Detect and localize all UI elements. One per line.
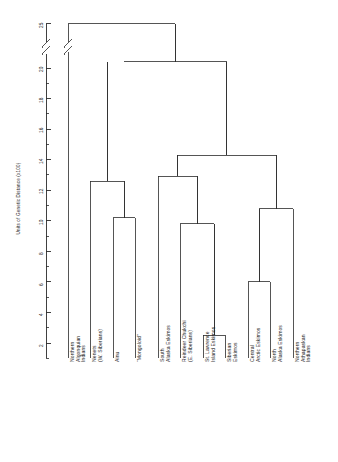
leaf-label-line: Arctic Eskimos [256,328,262,362]
leaf-label-central-arctic-eskimos: CentralArctic Eskimos [250,328,261,362]
leaf-label-reindeer-chukchi-e-siberians: Reindeer Chukchi(E. Siberians) [182,320,193,362]
y-axis-tick-label: 6 [39,283,44,286]
leaf-label-line: “Mongoloid” [137,334,143,362]
dendrogram-canvas [0,0,338,462]
leaf-label-north-alaska-eskimos: NorthAlaska Eskimos [272,325,283,362]
leaf-label-line: (E. Siberians) [188,320,194,362]
leaf-label-mongoloid: “Mongoloid” [137,334,143,362]
leaf-label-south-alaska-eskimos: SouthAlaska Eskimos [160,325,171,362]
y-axis-tick-label: 8 [39,253,44,256]
leaf-label-line: Indians [81,336,87,362]
axis-break-mark [42,46,50,55]
leaf-label-line: Eskimos [233,342,239,362]
leaf-label-line: Alaska Eskimos [278,325,284,362]
leaf-label-line: Indians [306,334,312,362]
y-axis-tick-label: 10 [39,219,44,225]
leaf-label-ainu: Ainu [115,352,121,363]
leaf-label-northern-algonquian-indians: NorthernAlgonquianIndians [70,336,87,362]
leaf-label-st-lawrence-island-eskimos: St. LawrenceIsland Eskimos [205,327,216,362]
dendrogram-tree [64,24,293,358]
y-axis-tick-label: 25 [39,22,44,28]
y-axis-tick-label: 14 [39,158,44,164]
leaf-label-line: Island Eskimos [211,327,217,362]
leaf-label-siberian-eskimos: SiberianEskimos [227,342,238,362]
y-axis-tick-label: 20 [39,66,44,72]
leaf-label-line: Ainu [115,352,121,363]
y-axis-tick-label: 12 [39,189,44,195]
dendrogram-figure: Units of Genetic Distance (x100) 2520181… [0,0,338,462]
leaf-label-line: (W. Siberians) [98,329,104,362]
leaf-label-northern-athapaskan-indians: NorthernAthapaskanIndians [295,334,312,362]
y-axis-tick-label: 18 [39,97,44,103]
y-axis-tick-label: 2 [39,344,44,347]
y-axis-title: Units of Genetic Distance (x100) [16,129,21,269]
leaf-label-line: Alaska Eskimos [166,325,172,362]
y-axis-tick-label: 16 [39,128,44,134]
leaf-label-nenets-w-siberians: Nenets(W. Siberians) [92,329,103,362]
